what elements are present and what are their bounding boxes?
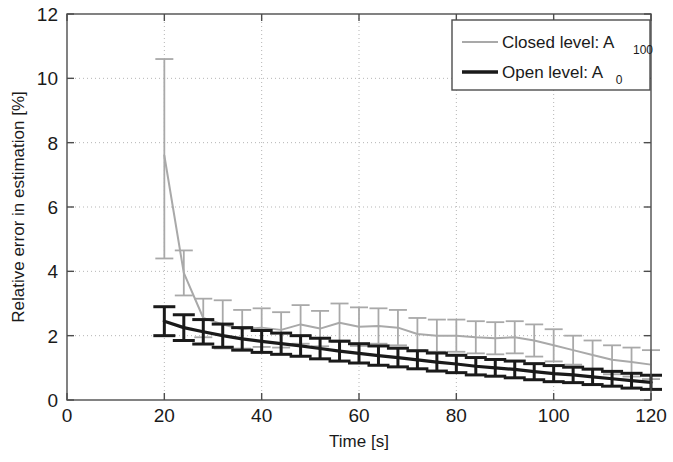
y-tick-label: 10: [37, 68, 58, 89]
y-tick-label: 0: [47, 390, 58, 411]
legend-label-subscript: 100: [633, 43, 653, 57]
y-axis-title: Relative error in estimation [%]: [9, 91, 28, 322]
x-tick-label: 60: [348, 405, 369, 426]
y-tick-label: 12: [37, 4, 58, 25]
x-tick-label: 120: [635, 405, 667, 426]
x-tick-label: 20: [154, 405, 175, 426]
y-tick-label: 8: [47, 133, 58, 154]
legend: Closed level: A100Open level: A0: [452, 20, 653, 90]
x-axis-title: Time [s]: [329, 432, 389, 451]
legend-label-main: Closed level: A: [502, 33, 615, 52]
y-tick-label: 4: [47, 261, 58, 282]
x-tick-label: 0: [62, 405, 73, 426]
x-tick-label: 80: [446, 405, 467, 426]
legend-label-main: Open level: A: [502, 63, 604, 82]
y-tick-label: 6: [47, 197, 58, 218]
y-tick-label: 2: [47, 326, 58, 347]
chart-canvas: 020406080100120024681012Time [s]Relative…: [0, 0, 673, 462]
x-tick-label: 40: [251, 405, 272, 426]
x-tick-label: 100: [538, 405, 570, 426]
chart-figure: 020406080100120024681012Time [s]Relative…: [0, 0, 673, 462]
legend-label-subscript: 0: [616, 73, 623, 87]
